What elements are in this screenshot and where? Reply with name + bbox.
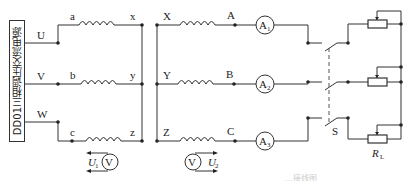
svg-text:3: 3 [267,141,271,149]
label-z: z [130,126,135,138]
svg-text:2: 2 [215,162,219,170]
load-label: R [371,147,379,159]
label-Y: Y [163,69,171,81]
svg-text:1: 1 [95,162,99,170]
terminal-v: V [37,70,45,82]
secondary-star-bus [155,23,159,143]
svg-text:A: A [259,78,267,90]
label-a: a [70,10,75,22]
secondary-winding-b [157,81,256,86]
ammeter-a2: A 2 [256,75,274,93]
load-label-sub: L [380,153,384,161]
circuit-diagram: U V W a b c x y z [0,0,411,181]
load-star-bus [399,11,403,139]
load-resistor-1 [348,11,401,43]
primary-winding-a [56,22,142,45]
switch-s [308,41,350,126]
svg-text:1: 1 [267,25,271,33]
terminal-u: U [37,29,45,41]
secondary-winding-a [157,22,256,27]
label-b: b [70,69,76,81]
secondary-winding-c [157,138,256,143]
figure-caption: …接线图 [285,172,317,181]
switch-input-wires [274,25,310,141]
label-y: y [130,69,136,81]
label-A: A [227,9,235,21]
label-c: c [70,126,75,138]
voltmeter-u2: V U 2 [185,151,219,173]
label-Z: Z [163,126,170,138]
switch-label: S [332,125,338,137]
ammeter-a1: A 1 [256,16,274,34]
label-B: B [226,68,233,80]
voltmeter-u1: V U 1 [86,151,118,173]
svg-text:V: V [188,156,196,168]
label-C: C [227,125,234,137]
svg-text:2: 2 [267,84,271,92]
label-X: X [163,10,171,22]
primary-star-bus [140,23,144,143]
terminal-w: W [37,108,48,120]
ammeter-a3: A 3 [256,132,274,150]
svg-text:V: V [105,156,113,168]
load-resistor-3 [348,118,401,143]
load-resistor-2 [348,67,401,86]
primary-winding-b [56,81,142,86]
label-x: x [130,10,136,22]
svg-text:A: A [259,135,267,147]
svg-text:A: A [259,19,267,31]
